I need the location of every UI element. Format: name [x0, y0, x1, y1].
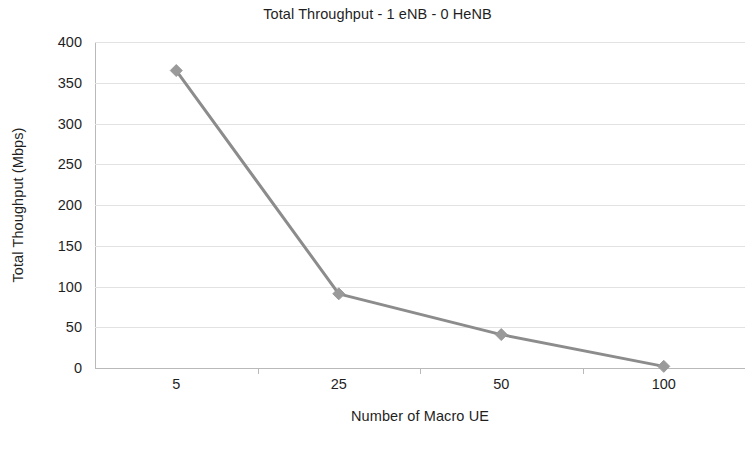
- x-axis-title: Number of Macro UE: [95, 408, 745, 424]
- chart-container: Total Throughput - 1 eNB - 0 HeNB Total …: [0, 0, 755, 449]
- y-axis-tick-label: 250: [58, 156, 82, 172]
- y-axis-tick-label: 50: [66, 319, 82, 335]
- y-axis-title: Total Thoughput (Mbps): [10, 127, 26, 282]
- data-point-marker: [658, 360, 670, 372]
- x-axis-tick-mark: [420, 369, 421, 374]
- x-axis-tick-mark: [583, 369, 584, 374]
- x-axis-tick-label: 100: [652, 376, 676, 392]
- chart-title: Total Throughput - 1 eNB - 0 HeNB: [0, 6, 755, 22]
- plot-area: [95, 42, 745, 368]
- x-axis-tick-label: 25: [331, 376, 347, 392]
- series-line: [176, 71, 664, 367]
- y-axis-tick-label: 150: [58, 238, 82, 254]
- y-axis-tick-labels: 050100150200250300350400: [36, 42, 88, 368]
- y-axis-tick-label: 100: [58, 279, 82, 295]
- y-axis-tick-label: 200: [58, 197, 82, 213]
- x-axis-tick-label: 5: [172, 376, 180, 392]
- y-axis-tick-label: 0: [74, 360, 82, 376]
- y-axis-tick-label: 300: [58, 116, 82, 132]
- data-point-marker: [495, 329, 507, 341]
- y-axis-title-container: Total Thoughput (Mbps): [2, 0, 34, 410]
- data-series-line: [95, 42, 745, 368]
- x-axis-tick-mark: [258, 369, 259, 374]
- x-axis-tick-label: 50: [493, 376, 509, 392]
- y-axis-tick-label: 400: [58, 34, 82, 50]
- y-axis-tick-label: 350: [58, 75, 82, 91]
